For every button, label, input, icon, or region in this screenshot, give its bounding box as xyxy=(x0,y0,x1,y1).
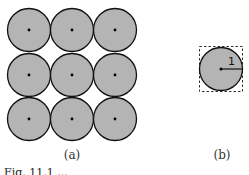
panel-a-label: (a) xyxy=(64,148,81,162)
center-dot xyxy=(220,68,223,71)
figure-caption: Fig. 11.1 ... xyxy=(4,166,68,175)
panel-b: 1 xyxy=(200,47,243,92)
diagram-canvas: 1 xyxy=(0,0,249,175)
radius-label: 1 xyxy=(228,55,235,68)
panel-b-label: (b) xyxy=(213,148,230,162)
